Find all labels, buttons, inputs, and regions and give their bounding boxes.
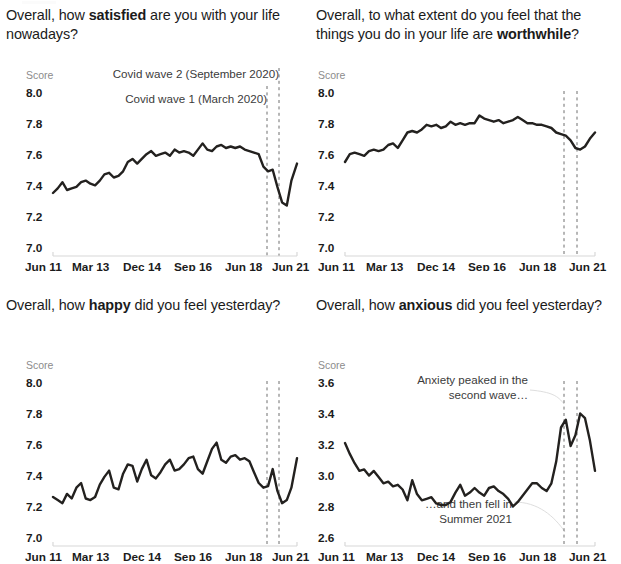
xtick-2: Dec 14 [417,260,455,271]
top-artifact [22,1,56,4]
x-axis-ticks-worthwhile: Jun 11 Mar 13 Dec 14 Sep 16 Jun 18 Jun 2… [318,260,607,271]
annotation-covid-wave-1: Covid wave 1 (March 2020) [125,92,267,105]
ytick-1: 7.8 [318,117,335,131]
panel-worthwhile: Overall, to what extent do you feel that… [316,6,621,278]
title-emphasis-happy: happy [89,297,131,313]
x-axis-ticks-satisfied: Jun 11 Mar 13 Dec 14 Sep 16 Jun 18 Jun 2… [25,260,310,271]
panel-happy: Overall, how happy did you feel yesterda… [6,296,311,564]
chart-happy: Score 8.0 7.8 7.6 7.4 7.2 7.0 [6,356,311,561]
series-line-satisfied [53,143,297,205]
ytick-5: 7.0 [26,241,43,255]
ytick-2: 7.6 [26,148,43,162]
ytick-2: 7.6 [318,148,335,162]
y-axis-label-happy: Score [26,359,54,371]
panel-satisfied: Overall, how satisfied are you with your… [6,6,311,278]
xtick-0: Jun 11 [318,550,355,561]
y-axis-label-worthwhile: Score [318,69,346,81]
xtick-3: Sep 16 [174,550,212,561]
chart-anxious: Score 3.6 3.4 3.2 3.0 2.8 2.6 Anxiety pe… [316,356,621,561]
xtick-2: Dec 14 [123,550,161,561]
leader-line-top [530,390,564,404]
xtick-4: Jun 18 [225,260,263,271]
ytick-2: 3.2 [318,438,335,452]
ytick-3: 7.4 [26,179,43,193]
xtick-2: Dec 14 [417,550,455,561]
title-text-part-1: Overall, how [6,297,89,313]
xtick-1: Mar 13 [366,550,404,561]
series-line-happy [53,443,297,504]
ytick-0: 3.6 [318,376,335,390]
panel-title-anxious: Overall, how anxious did you feel yester… [316,296,621,315]
xtick-4: Jun 18 [519,550,557,561]
y-axis-ticks-satisfied: 8.0 7.8 7.6 7.4 7.2 7.0 [26,86,43,255]
chart-satisfied-svg: Score 8.0 7.8 7.6 7.4 7.2 7.0 Covid wave… [6,66,311,271]
plot-area-happy [53,381,297,546]
xtick-4: Jun 18 [225,550,263,561]
ytick-3: 7.4 [26,469,43,483]
xtick-3: Sep 16 [468,550,506,561]
plot-area-worthwhile [345,91,595,256]
ytick-4: 7.2 [26,500,43,514]
xtick-2: Dec 14 [123,260,161,271]
xtick-0: Jun 11 [25,550,62,561]
ytick-0: 8.0 [26,376,43,390]
xtick-5: Jun 21 [272,550,310,561]
ytick-2: 7.6 [26,438,43,452]
xtick-1: Mar 13 [72,550,110,561]
y-axis-ticks-happy: 8.0 7.8 7.6 7.4 7.2 7.0 [26,376,43,545]
panel-title-happy: Overall, how happy did you feel yesterda… [6,296,311,315]
panel-anxious: Overall, how anxious did you feel yester… [316,296,621,564]
ytick-4: 7.2 [318,210,335,224]
ytick-0: 8.0 [26,86,43,100]
chart-worthwhile: Score 8.0 7.8 7.6 7.4 7.2 7.0 [316,66,621,271]
title-emphasis-worthwhile: worthwhile [497,26,571,42]
xtick-5: Jun 21 [569,550,607,561]
panel-title-satisfied: Overall, how satisfied are you with your… [6,6,311,44]
annotation-covid-wave-2: Covid wave 2 (September 2020) [113,67,279,80]
leader-line-bottom [514,502,565,532]
chart-satisfied: Score 8.0 7.8 7.6 7.4 7.2 7.0 Covid wave… [6,66,311,271]
x-axis-ticks-anxious: Jun 11 Mar 13 Dec 14 Sep 16 Jun 18 Jun 2… [318,550,607,561]
xtick-1: Mar 13 [366,260,404,271]
title-text-part-1: Overall, how [316,297,399,313]
ytick-3: 7.4 [318,179,335,193]
dashboard-grid: Overall, how satisfied are you with your… [0,0,621,564]
title-text-part-1: Overall, how [6,7,89,23]
xtick-0: Jun 11 [318,260,355,271]
x-axis-ticks-happy: Jun 11 Mar 13 Dec 14 Sep 16 Jun 18 Jun 2… [25,550,310,561]
ytick-1: 7.8 [26,117,43,131]
ytick-5: 2.6 [318,531,335,545]
ytick-1: 3.4 [318,407,335,421]
chart-anxious-svg: Score 3.6 3.4 3.2 3.0 2.8 2.6 Anxiety pe… [316,356,621,561]
y-axis-label-satisfied: Score [26,69,54,81]
ytick-5: 7.0 [26,531,43,545]
y-axis-ticks-anxious: 3.6 3.4 3.2 3.0 2.8 2.6 [318,376,335,545]
ytick-0: 8.0 [318,86,335,100]
title-emphasis-anxious: anxious [399,297,453,313]
xtick-3: Sep 16 [174,260,212,271]
panel-title-worthwhile: Overall, to what extent do you feel that… [316,6,621,44]
ytick-5: 7.0 [318,241,335,255]
xtick-5: Jun 21 [569,260,607,271]
series-line-anxious [345,414,595,507]
xtick-4: Jun 18 [519,260,557,271]
title-text-part-2: did you feel yesterday? [131,297,281,313]
annotation-fell-line-2: Summer 2021 [439,512,512,525]
xtick-5: Jun 21 [272,260,310,271]
series-line-worthwhile [345,116,595,163]
ytick-4: 2.8 [318,500,335,514]
title-text-part-2: ? [571,26,579,42]
y-axis-ticks-worthwhile: 8.0 7.8 7.6 7.4 7.2 7.0 [318,86,335,255]
annotation-peak-line-2: second wave… [449,388,528,401]
ytick-3: 3.0 [318,469,335,483]
annotations-satisfied: Covid wave 2 (September 2020) Covid wave… [113,67,279,105]
ytick-4: 7.2 [26,210,43,224]
title-text-part-2: did you feel yesterday? [452,297,602,313]
xtick-1: Mar 13 [72,260,110,271]
title-emphasis-satisfied: satisfied [89,7,147,23]
xtick-3: Sep 16 [468,260,506,271]
xtick-0: Jun 11 [25,260,62,271]
chart-worthwhile-svg: Score 8.0 7.8 7.6 7.4 7.2 7.0 [316,66,621,271]
ytick-1: 7.8 [26,407,43,421]
annotation-peak-line-1: Anxiety peaked in the [417,373,528,386]
